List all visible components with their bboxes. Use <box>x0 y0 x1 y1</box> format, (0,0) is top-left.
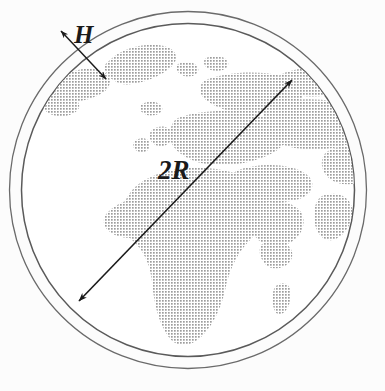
figure-canvas <box>0 0 385 391</box>
land-central-asia <box>263 99 368 149</box>
land-southeast-asia <box>353 201 380 228</box>
land-east-asia <box>322 146 375 184</box>
diameter-label-2R: 2R <box>158 157 190 184</box>
thickness-label-H: H <box>74 22 93 47</box>
earth-atmosphere-figure: H 2R <box>0 0 385 391</box>
